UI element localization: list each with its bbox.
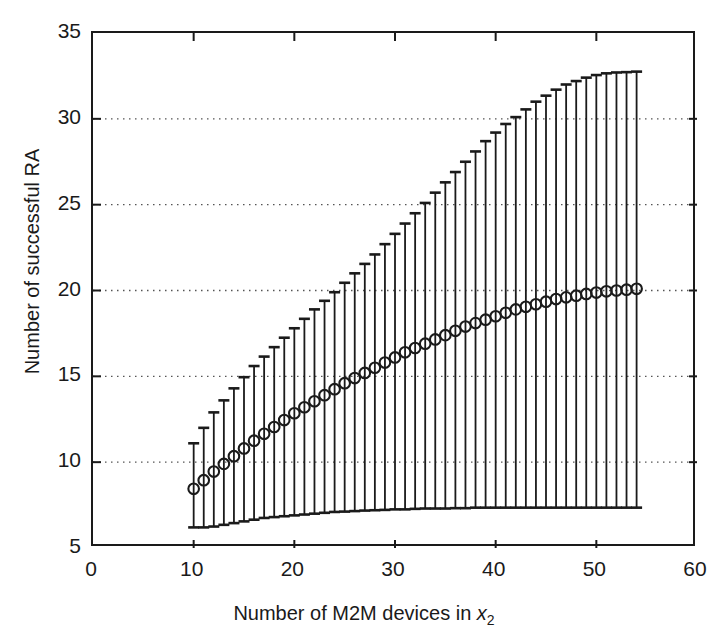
y-tick-label: 10 [35,449,81,470]
x-axis-title: Number of M2M devices in x2 [0,602,728,628]
chart-canvas [93,33,697,548]
x-axis-variable-subscript: 2 [487,612,495,628]
plot-area [91,31,695,546]
y-tick-label: 30 [35,106,81,127]
y-tick-label: 35 [35,20,81,41]
y-tick-label: 15 [35,363,81,384]
x-tick-label: 0 [61,558,121,579]
x-axis-variable: x [477,602,487,624]
x-axis-title-text: Number of M2M devices in [233,602,476,624]
y-tick-label: 20 [35,278,81,299]
x-tick-label: 60 [665,558,725,579]
x-tick-label: 30 [363,558,423,579]
figure-container: Number of successful RA 5101520253035 01… [0,0,728,633]
x-tick-label: 20 [262,558,322,579]
x-tick-label: 10 [162,558,222,579]
x-tick-label: 50 [564,558,624,579]
x-tick-label: 40 [464,558,524,579]
y-tick-label: 25 [35,192,81,213]
y-tick-label: 5 [35,535,81,556]
